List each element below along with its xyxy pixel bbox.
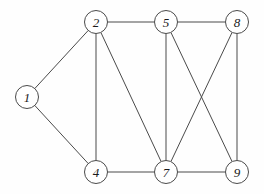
edge-layer xyxy=(35,22,237,172)
graph-node-4[interactable]: 4 xyxy=(85,161,108,184)
graph-diagram: 1245789 xyxy=(0,0,264,194)
node-layer: 1245789 xyxy=(16,11,249,184)
graph-node-2[interactable]: 2 xyxy=(85,11,108,34)
node-label-9: 9 xyxy=(234,165,241,180)
graph-canvas: 1245789 xyxy=(0,0,264,194)
node-label-2: 2 xyxy=(93,15,100,30)
graph-node-9[interactable]: 9 xyxy=(226,161,249,184)
graph-node-1[interactable]: 1 xyxy=(16,86,39,109)
graph-node-8[interactable]: 8 xyxy=(226,11,249,34)
graph-edge-1-4 xyxy=(35,105,88,163)
node-label-8: 8 xyxy=(234,15,241,30)
node-label-7: 7 xyxy=(163,165,170,180)
graph-node-5[interactable]: 5 xyxy=(155,11,178,34)
node-label-4: 4 xyxy=(93,165,100,180)
node-label-1: 1 xyxy=(24,90,31,105)
graph-edge-1-2 xyxy=(35,30,88,88)
graph-node-7[interactable]: 7 xyxy=(155,161,178,184)
graph-edge-2-7 xyxy=(101,32,161,161)
node-label-5: 5 xyxy=(163,15,170,30)
